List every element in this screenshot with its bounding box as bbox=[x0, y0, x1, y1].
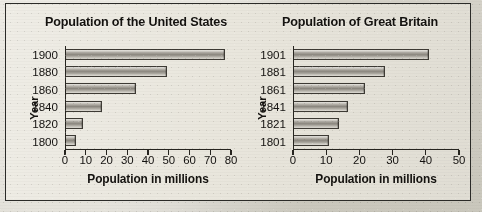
x-tick-label: 40 bbox=[142, 154, 155, 166]
y-tick-label: 1840 bbox=[17, 101, 63, 112]
bar-row bbox=[66, 49, 231, 60]
x-axis-label: Population in millions bbox=[293, 172, 459, 186]
x-tick-label: 0 bbox=[62, 154, 68, 166]
y-tick-label: 1820 bbox=[17, 118, 63, 129]
x-tick-label: 30 bbox=[121, 154, 134, 166]
x-axis-label: Population in millions bbox=[65, 172, 231, 186]
x-tick-label: 50 bbox=[162, 154, 175, 166]
bar bbox=[66, 135, 76, 146]
y-tick-label: 1841 bbox=[245, 101, 291, 112]
y-tick-label: 1900 bbox=[17, 49, 63, 60]
y-tick-label: 1901 bbox=[245, 49, 291, 60]
x-tick-label: 10 bbox=[320, 154, 333, 166]
bar bbox=[66, 83, 136, 94]
x-tick-label: 50 bbox=[453, 154, 466, 166]
scanned-page: Population of the United States Year 190… bbox=[0, 0, 482, 212]
bar-row bbox=[66, 118, 231, 129]
bar-row bbox=[294, 135, 459, 146]
x-tick-label: 40 bbox=[419, 154, 432, 166]
x-tick-label: 30 bbox=[386, 154, 399, 166]
bar bbox=[294, 135, 329, 146]
plot-area bbox=[65, 46, 231, 150]
plot-area bbox=[293, 46, 459, 150]
bar-series bbox=[66, 46, 231, 149]
y-tick-label: 1800 bbox=[17, 136, 63, 147]
bar bbox=[66, 101, 102, 112]
bar-row bbox=[66, 135, 231, 146]
bar bbox=[294, 118, 339, 129]
x-tick-label: 0 bbox=[290, 154, 296, 166]
x-axis-tick-labels: 01020304050607080 bbox=[65, 154, 231, 168]
bar-row bbox=[294, 66, 459, 77]
bar bbox=[294, 66, 385, 77]
y-tick-label: 1801 bbox=[245, 136, 291, 147]
bar-row bbox=[66, 83, 231, 94]
x-tick-label: 20 bbox=[100, 154, 113, 166]
bar-row bbox=[294, 49, 459, 60]
bar bbox=[66, 66, 167, 77]
bar-row bbox=[66, 101, 231, 112]
bar-series bbox=[294, 46, 459, 149]
bar bbox=[294, 49, 429, 60]
chart-united-states: Population of the United States Year 190… bbox=[6, 4, 246, 200]
x-tick-label: 10 bbox=[79, 154, 92, 166]
chart-title: Population of the United States bbox=[6, 15, 256, 29]
y-tick-label: 1880 bbox=[17, 66, 63, 77]
y-tick-label: 1860 bbox=[17, 84, 63, 95]
x-tick-label: 20 bbox=[353, 154, 366, 166]
chart-great-britain: Population of Great Britain Year 1901188… bbox=[246, 4, 470, 200]
bar bbox=[66, 118, 83, 129]
bar-row bbox=[294, 101, 459, 112]
bar bbox=[294, 83, 365, 94]
bar bbox=[66, 49, 225, 60]
bar-row bbox=[66, 66, 231, 77]
x-tick-label: 60 bbox=[183, 154, 196, 166]
y-tick-label: 1881 bbox=[245, 66, 291, 77]
figure-frame: Population of the United States Year 190… bbox=[5, 3, 471, 201]
bar bbox=[294, 101, 348, 112]
y-axis-tick-labels: 190018801860184018201800 bbox=[17, 46, 63, 150]
y-axis-tick-labels: 190118811861184118211801 bbox=[245, 46, 291, 150]
x-axis-tick-labels: 01020304050 bbox=[293, 154, 459, 168]
bar-row bbox=[294, 118, 459, 129]
chart-title: Population of Great Britain bbox=[246, 15, 472, 29]
y-tick-label: 1821 bbox=[245, 118, 291, 129]
x-tick-label: 80 bbox=[225, 154, 238, 166]
bar-row bbox=[294, 83, 459, 94]
y-tick-label: 1861 bbox=[245, 84, 291, 95]
x-tick-label: 70 bbox=[204, 154, 217, 166]
